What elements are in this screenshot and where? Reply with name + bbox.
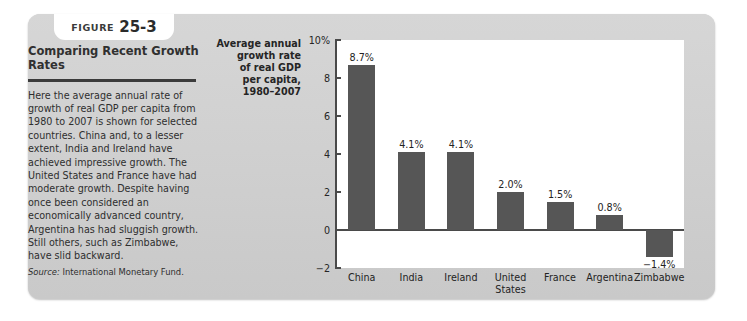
- bar: [646, 230, 673, 257]
- figure-tab: FIGURE 25-3: [54, 14, 174, 40]
- bar: [596, 215, 623, 230]
- y-axis-title-line-5: 1980–2007: [208, 86, 301, 98]
- bar-value-label: 2.0%: [498, 179, 522, 190]
- bar-value-label: 4.1%: [399, 139, 423, 150]
- source-label: Source:: [28, 267, 60, 277]
- figure-source: Source: International Monetary Fund.: [28, 266, 200, 278]
- headline-divider: [28, 79, 196, 82]
- x-axis-category-label: United States: [495, 272, 527, 295]
- figure-headline: Comparing Recent Growth Rates: [28, 44, 200, 72]
- y-tick-label: 4: [324, 149, 330, 160]
- bar: [398, 152, 425, 230]
- x-axis-category-label: India: [400, 272, 424, 284]
- y-tick-label: 6: [324, 111, 330, 122]
- plot-background: [337, 40, 684, 268]
- y-axis-title-line-3: of real GDP: [208, 62, 301, 74]
- bar: [348, 65, 375, 230]
- y-tick-label: 2: [324, 187, 330, 198]
- y-tick-mark: [335, 39, 341, 41]
- bar-value-label: −1.4%: [643, 259, 675, 270]
- y-axis-title-line-1: Average annual: [208, 38, 301, 50]
- figure-number: 25-3: [119, 18, 157, 36]
- y-tick-label: 10%: [309, 35, 330, 46]
- bar-value-label: 1.5%: [548, 189, 572, 200]
- y-axis-title-line-4: per capita,: [208, 74, 301, 86]
- x-axis-category-label: Ireland: [444, 272, 477, 284]
- y-tick-label: 8: [324, 73, 330, 84]
- bar: [547, 202, 574, 231]
- y-tick-mark: [335, 77, 341, 79]
- source-text: International Monetary Fund.: [62, 267, 183, 277]
- y-axis-title: Average annual growth rate of real GDP p…: [208, 38, 301, 98]
- bar-value-label: 0.8%: [597, 202, 621, 213]
- figure-container: FIGURE 25-3 Comparing Recent Growth Rate…: [0, 0, 747, 321]
- bar-value-label: 4.1%: [449, 139, 473, 150]
- y-tick-label: −2: [316, 263, 330, 274]
- y-axis-title-line-2: growth rate: [208, 50, 301, 62]
- y-tick-mark: [335, 267, 341, 269]
- x-axis-category-label: Zimbabwe: [634, 272, 684, 284]
- figure-body-text: Here the average annual rate of growth o…: [28, 89, 200, 263]
- y-tick-mark: [335, 191, 341, 193]
- bar: [447, 152, 474, 230]
- y-tick-mark: [335, 153, 341, 155]
- x-axis-category-label: China: [348, 272, 375, 284]
- y-tick-mark: [335, 115, 341, 117]
- y-tick-label: 0: [324, 225, 330, 236]
- bar-value-label: 8.7%: [350, 52, 374, 63]
- x-axis-category-label: Argentina: [586, 272, 633, 284]
- chart-plot-area: 10%86420−2 8.7%4.1%4.1%2.0%1.5%0.8%−1.4%…: [306, 38, 686, 270]
- bar: [497, 192, 524, 230]
- figure-label: FIGURE: [71, 22, 114, 33]
- figure-description-column: Comparing Recent Growth Rates Here the a…: [28, 44, 200, 278]
- x-axis-category-label: France: [544, 272, 576, 284]
